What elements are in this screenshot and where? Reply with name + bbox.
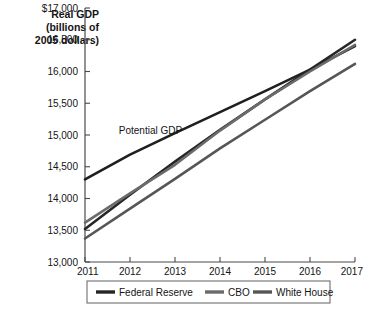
y-tick-label: $17,000	[42, 3, 79, 14]
legend-label-federal-reserve: Federal Reserve	[119, 287, 193, 298]
y-tick-label: 15,500	[47, 98, 78, 109]
annotation-potential-gdp: Potential GDP	[119, 125, 183, 136]
y-tick-label: 13,000	[47, 257, 78, 268]
x-tick-label: 2016	[299, 266, 322, 277]
y-tick-label: 14,500	[47, 161, 78, 172]
series-line-white-house	[85, 64, 355, 239]
chart-legend: Federal ReserveCBOWhite House	[87, 281, 334, 303]
y-axis-title-line-2: (billions of	[46, 21, 100, 33]
data-series-group	[85, 40, 355, 239]
x-axis-ticks: 2011201220132014201520162017	[77, 257, 363, 277]
y-tick-label: 16,000	[47, 66, 78, 77]
legend-label-white-house: White House	[276, 287, 334, 298]
chart-annotations: Potential GDP	[119, 125, 183, 136]
y-tick-label: 13,500	[47, 225, 78, 236]
x-tick-label: 2012	[119, 266, 142, 277]
y-tick-label: 14,000	[47, 193, 78, 204]
x-tick-label: 2017	[341, 266, 364, 277]
y-tick-label: 16,500	[47, 34, 78, 45]
y-tick-label: 15,000	[47, 130, 78, 141]
x-tick-label: 2013	[164, 266, 187, 277]
x-tick-label: 2011	[77, 266, 99, 277]
chart-container: Real GDP (billions of 2005 dollars) $17,…	[0, 0, 371, 316]
real-gdp-line-chart: Real GDP (billions of 2005 dollars) $17,…	[0, 0, 371, 316]
x-tick-label: 2015	[254, 266, 277, 277]
legend-label-cbo: CBO	[228, 287, 250, 298]
x-tick-label: 2014	[209, 266, 232, 277]
